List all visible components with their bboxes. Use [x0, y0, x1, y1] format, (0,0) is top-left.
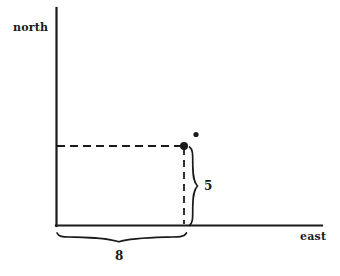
asterisk-icon — [193, 132, 198, 137]
y-axis-label: north — [13, 21, 48, 34]
coordinate-diagram — [0, 0, 340, 276]
figure-background — [0, 0, 340, 276]
x-axis-label: east — [300, 230, 326, 243]
horizontal-measure-label: 8 — [115, 249, 123, 263]
data-point-marker — [180, 142, 188, 150]
vertical-measure-label: 5 — [204, 179, 212, 193]
